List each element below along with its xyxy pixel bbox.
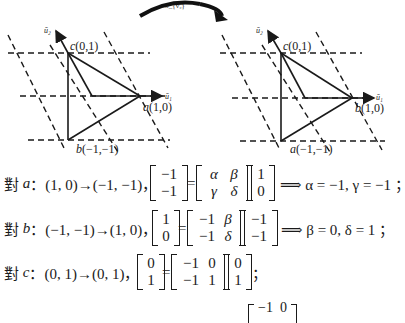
mapping: ：(−1, −1)→(1, 0)， xyxy=(30,218,157,239)
right-point-a-label: a(−1,−1) xyxy=(290,142,333,156)
right-point-b-label: b(1,0) xyxy=(355,101,384,115)
mapping: ：(0, 1)→(0, 1)， xyxy=(29,262,139,283)
transform-label: σ_{v₂} xyxy=(165,2,185,10)
mapping: ：(1, 0)→(−1, −1)， xyxy=(30,173,157,194)
right-triangle xyxy=(281,53,352,141)
result: ； xyxy=(252,262,267,283)
lhs-vector: 01 xyxy=(137,254,165,290)
left-triangle xyxy=(68,53,140,140)
input-vector: 10 xyxy=(247,165,275,201)
lhs-vector: 10 xyxy=(152,210,180,246)
prefix: 對 xyxy=(4,173,19,194)
transform-matrix: αβγδ xyxy=(196,165,252,201)
input-vector: −1−1 xyxy=(240,210,278,246)
left-point-c-label: c(0,1) xyxy=(70,39,98,53)
diagram-canvas: σ_{v₂} ū₂ ū₁ c(0,1) a(1,0) b(−1,−1) xyxy=(0,0,391,160)
partial-bottom-matrix: −1 0 xyxy=(248,300,297,320)
left-point-a-label: a(1,0) xyxy=(143,100,172,114)
result: ⟹ β = 0, δ = 1 ； xyxy=(281,218,394,239)
prefix: 對 xyxy=(4,262,19,283)
equation-a: 對 a：(1, 0)→(−1, −1)， −1−1 = αβγδ 10 ⟹ α … xyxy=(0,163,391,203)
var: c xyxy=(23,264,30,281)
left-point-b-label: b(−1,−1) xyxy=(76,142,119,156)
result: ⟹ α = −1, γ = −1 ； xyxy=(280,173,405,194)
transform-matrix: −10−11 xyxy=(171,254,229,290)
var: a xyxy=(23,175,31,192)
left-axis-u2-label: ū₂ xyxy=(44,26,51,35)
transform-matrix: −1β−1δ xyxy=(187,210,245,246)
equation-c: 對 c：(0, 1)→(0, 1)， 01 = −10−11 01 ； xyxy=(0,252,391,292)
var: b xyxy=(23,220,31,237)
right-axis-u2-label: ū₂ xyxy=(256,26,263,35)
right-point-c-label: c(0,1) xyxy=(283,39,311,53)
input-vector: 01 xyxy=(224,254,252,290)
equation-b: 對 b：(−1, −1)→(1, 0)， 10 = −1β−1δ −1−1 ⟹ … xyxy=(0,208,391,248)
lhs-vector: −1−1 xyxy=(150,165,188,201)
prefix: 對 xyxy=(4,218,19,239)
